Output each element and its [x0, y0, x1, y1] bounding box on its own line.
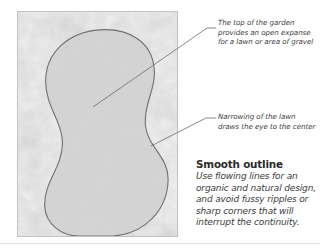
footer-divider [0, 243, 320, 244]
caption-title: Smooth outline [196, 158, 320, 170]
figure-root: The top of the garden provides an open e… [0, 0, 320, 252]
illustration-panel [17, 11, 178, 237]
caption-block: Smooth outline Use flowing lines for an … [196, 158, 320, 229]
lawn-outline-shape [18, 12, 177, 236]
caption-body: Use flowing lines for an organic and nat… [196, 171, 320, 229]
callout-top-of-garden: The top of the garden provides an open e… [218, 18, 318, 47]
callout-narrowing-of-lawn: Narrowing of the lawn draws the eye to t… [218, 112, 318, 131]
